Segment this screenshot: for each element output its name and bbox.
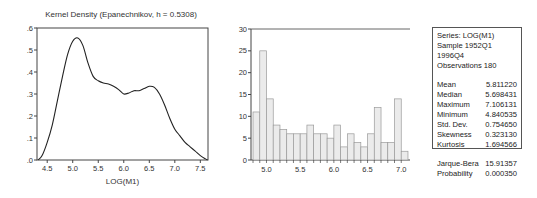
histogram-chart: 0510152025305.05.56.06.57.0	[225, 0, 425, 198]
kernel-density-chart: Kernel Density (Epanechnikov, h = 0.5308…	[0, 0, 225, 198]
plot-frame	[37, 28, 208, 160]
histogram-bar	[293, 134, 300, 160]
stats-sample: Sample 1952Q1 1996Q4	[437, 41, 517, 61]
stat-row: Kurtosis1.694566	[437, 140, 517, 150]
x-tick-label: 5.5	[93, 164, 103, 173]
stat-value: 5.811220	[486, 80, 517, 90]
histogram-bar	[368, 134, 375, 160]
histogram-bar	[266, 99, 273, 160]
y-tick-label: .2	[27, 112, 33, 121]
x-tick-label: 6.5	[362, 165, 372, 174]
y-tick-label: 30	[239, 25, 247, 34]
stat-row: Skewness0.323130	[437, 130, 517, 140]
histogram-bar	[307, 125, 314, 160]
histogram-bar	[395, 99, 402, 160]
stat-label: Std. Dev.	[437, 120, 468, 130]
histogram-bar	[341, 147, 348, 160]
y-tick-label: 5	[243, 134, 247, 143]
x-tick-label: 5.0	[68, 164, 78, 173]
y-tick-label: 0	[243, 156, 247, 165]
histogram-bar	[401, 151, 408, 160]
histogram-bar	[388, 143, 395, 160]
stat-value: 7.106131	[485, 100, 517, 110]
y-tick-label: .6	[27, 24, 33, 33]
stat-value: 0.754650	[485, 120, 517, 130]
stat-value: 0.000350	[485, 169, 517, 179]
y-tick-label: 15	[239, 90, 247, 99]
stat-row: Mean5.811220	[437, 80, 517, 90]
x-axis-label: LOG(M1)	[106, 177, 140, 186]
stat-row: Probability0.000350	[437, 169, 517, 179]
histogram-bar	[374, 108, 381, 160]
stat-row: Median5.698431	[437, 90, 517, 100]
stat-label: Jarque-Bera	[437, 159, 479, 169]
stat-label: Skewness	[437, 130, 472, 140]
histogram-bar	[287, 134, 294, 160]
stat-label: Probability	[437, 169, 472, 179]
histogram-bar	[253, 112, 260, 160]
x-tick-label: 7.0	[170, 164, 180, 173]
histogram-bar	[300, 134, 307, 160]
histogram-bar	[280, 129, 287, 160]
stat-value: 1.694566	[485, 140, 517, 150]
stat-label: Mean	[437, 80, 456, 90]
stat-label: Kurtosis	[437, 140, 464, 150]
y-tick-label: .5	[27, 46, 33, 55]
histogram-bar	[314, 134, 321, 160]
x-tick-label: 5.0	[261, 165, 271, 174]
descriptive-stats-panel: Series: LOG(M1) Sample 1952Q1 1996Q4 Obs…	[432, 27, 522, 149]
x-tick-label: 7.5	[195, 164, 205, 173]
stat-label: Median	[437, 90, 462, 100]
histogram-bar	[273, 125, 280, 160]
x-tick-label: 6.0	[329, 165, 339, 174]
density-curve	[38, 38, 207, 160]
histogram-bar	[381, 143, 388, 160]
stat-row: Maximum7.106131	[437, 100, 517, 110]
x-tick-label: 4.5	[42, 164, 52, 173]
histogram-bar	[320, 134, 327, 160]
y-tick-label: .4	[27, 68, 33, 77]
chart-title: Kernel Density (Epanechnikov, h = 0.5308…	[45, 10, 197, 19]
stat-value: 5.698431	[485, 90, 517, 100]
stat-row: Minimum4.840535	[437, 110, 517, 120]
x-tick-label: 5.5	[295, 165, 305, 174]
stat-label: Minimum	[437, 110, 468, 120]
histogram-bar	[354, 143, 361, 160]
stat-value: 0.323130	[485, 130, 517, 140]
stat-row: Std. Dev.0.754650	[437, 120, 517, 130]
y-tick-label: 20	[239, 68, 247, 77]
stat-label: Maximum	[437, 100, 470, 110]
stats-observations: Observations 180	[437, 61, 517, 71]
x-tick-label: 6.0	[119, 164, 129, 173]
stats-series: Series: LOG(M1)	[437, 31, 517, 41]
histogram-bar	[260, 51, 267, 160]
x-tick-label: 6.5	[144, 164, 154, 173]
stat-value: 15.91357	[485, 159, 517, 169]
histogram-bar	[361, 147, 368, 160]
x-tick-label: 7.0	[396, 165, 406, 174]
histogram-bar	[327, 138, 334, 160]
y-tick-label: 10	[239, 112, 247, 121]
y-tick-label: .0	[27, 156, 33, 165]
y-tick-label: .1	[27, 134, 33, 143]
stat-value: 4.840535	[485, 110, 517, 120]
stat-row: Jarque-Bera15.91357	[437, 159, 517, 169]
y-tick-label: .3	[27, 90, 33, 99]
y-tick-label: 25	[239, 46, 247, 55]
histogram-bar	[347, 134, 354, 160]
histogram-bar	[334, 125, 341, 160]
